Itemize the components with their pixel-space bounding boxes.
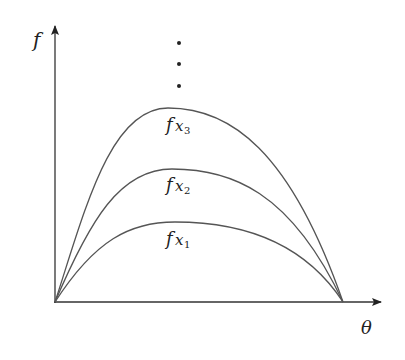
- x-axis-label: θ: [361, 317, 372, 338]
- curve-family-diagram: f θ f x 3 f x 2 f x 1: [0, 0, 405, 360]
- vertical-ellipsis-icon: [177, 41, 181, 88]
- label-fx2: f x 2: [164, 174, 190, 196]
- svg-text:x: x: [175, 177, 184, 195]
- label-fx1: f x 1: [164, 228, 190, 250]
- svg-text:1: 1: [184, 239, 190, 250]
- curve-fx2: [55, 169, 343, 302]
- svg-text:2: 2: [184, 185, 190, 196]
- svg-text:x: x: [175, 231, 184, 249]
- y-axis-label: f: [31, 28, 44, 52]
- curve-fx1: [55, 222, 343, 302]
- label-fx3: f x 3: [164, 114, 190, 136]
- svg-text:3: 3: [184, 125, 190, 136]
- curve-fx3: [55, 108, 343, 302]
- svg-text:x: x: [175, 117, 184, 135]
